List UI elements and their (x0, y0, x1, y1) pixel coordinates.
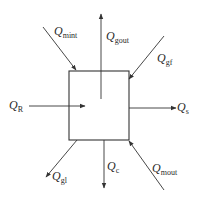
control-volume-box (69, 71, 129, 140)
label-q-r: QR (9, 99, 23, 113)
label-q-mint: Qmint (54, 25, 77, 39)
label-q-gf: Qgf (157, 52, 172, 66)
energy-balance-diagram: Qmint Qgout Qgf QR Qs Qgl Qc Qmout (0, 0, 199, 208)
label-q-c: Qc (107, 160, 119, 174)
label-q-gl: Qgl (52, 170, 67, 184)
label-q-mout: Qmout (152, 162, 177, 176)
label-q-s: Qs (177, 101, 189, 115)
label-q-gout: Qgout (106, 30, 129, 44)
